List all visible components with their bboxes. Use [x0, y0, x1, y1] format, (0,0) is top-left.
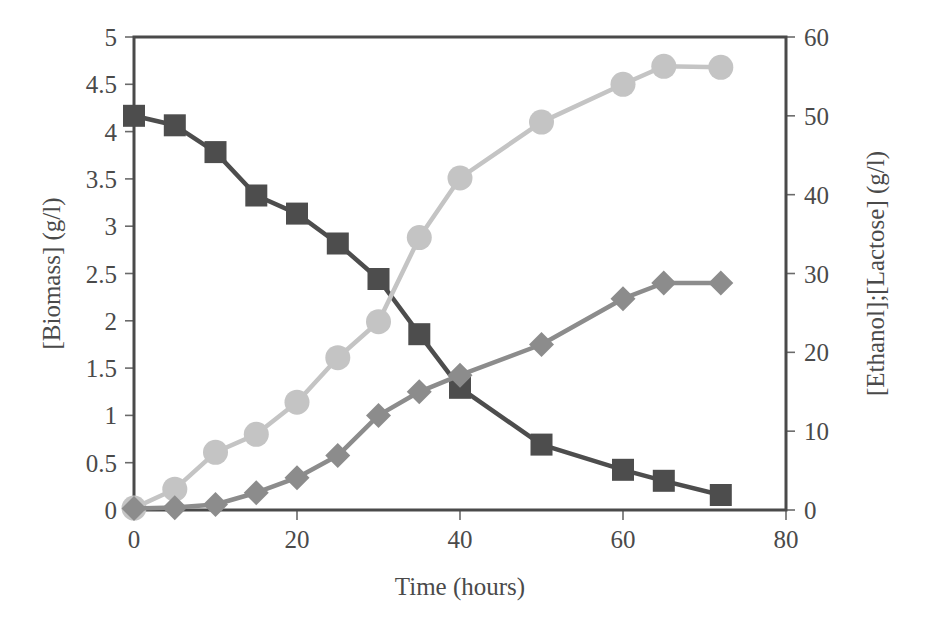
marker-square: [327, 233, 349, 255]
left-axis-tick-label: 1: [105, 402, 118, 429]
x-axis-tick-label: 80: [774, 526, 799, 553]
marker-circle: [651, 54, 676, 79]
marker-square: [205, 141, 227, 163]
marker-square: [531, 434, 553, 456]
left-axis-tick-label: 2.5: [86, 261, 117, 288]
y-axis-title: [Biomass] (g/l): [38, 197, 66, 349]
x-axis-tick-label: 60: [611, 526, 636, 553]
left-axis-tick-label: 1.5: [86, 355, 117, 382]
marker-square: [245, 185, 267, 207]
marker-circle: [529, 110, 554, 135]
marker-circle: [708, 55, 733, 80]
right-axis-tick-label: 50: [804, 103, 829, 130]
marker-square: [710, 484, 732, 506]
marker-circle: [244, 422, 269, 447]
marker-circle: [366, 309, 391, 334]
marker-square: [286, 203, 308, 225]
x-axis-tick-label: 0: [128, 526, 141, 553]
marker-circle: [448, 166, 473, 191]
marker-square: [368, 268, 390, 290]
right-axis-tick-label: 30: [804, 261, 829, 288]
left-axis-tick-label: 0.5: [86, 450, 117, 477]
left-axis-tick-label: 5: [105, 24, 118, 51]
chart-figure: 00.511.522.533.544.55 0102030405060 0204…: [0, 0, 928, 623]
marker-circle: [325, 345, 350, 370]
marker-square: [123, 105, 145, 127]
left-axis-tick-label: 3.5: [86, 166, 117, 193]
marker-square: [653, 470, 675, 492]
right-axis-tick-label: 0: [804, 497, 817, 524]
right-axis-tick-label: 20: [804, 339, 829, 366]
left-axis-tick-label: 3: [105, 213, 118, 240]
left-axis-tick-label: 0: [105, 497, 118, 524]
marker-circle: [407, 225, 432, 250]
left-axis-tick-label: 4: [105, 119, 118, 146]
x-axis-title: Time (hours): [395, 573, 525, 601]
marker-circle: [285, 390, 310, 415]
x-axis-tick-label: 40: [448, 526, 473, 553]
line-chart: 00.511.522.533.544.55 0102030405060 0204…: [0, 0, 928, 623]
marker-square: [408, 323, 430, 345]
left-axis-tick-label: 2: [105, 308, 118, 335]
x-axis-tick-label: 20: [285, 526, 310, 553]
marker-square: [612, 459, 634, 481]
marker-circle: [611, 72, 636, 97]
y2-axis-title: [Ethanol];[Lactose] (g/l): [862, 151, 890, 396]
marker-circle: [203, 440, 228, 465]
right-axis-tick-label: 40: [804, 182, 829, 209]
marker-square: [164, 114, 186, 136]
right-axis-tick-label: 60: [804, 24, 829, 51]
left-axis-tick-label: 4.5: [86, 71, 117, 98]
right-axis-tick-label: 10: [804, 418, 829, 445]
